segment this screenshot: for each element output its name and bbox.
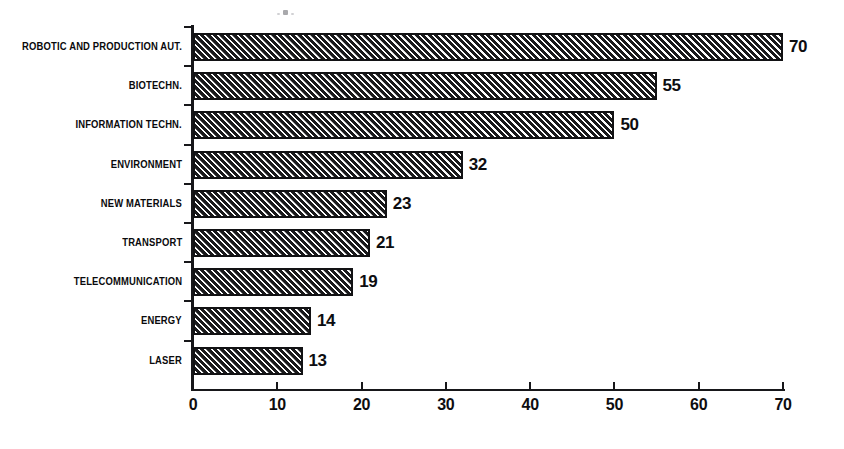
x-axis-tick-label: 70 <box>753 396 813 414</box>
bar <box>193 307 311 335</box>
y-axis-tick <box>184 65 193 67</box>
bar <box>193 72 657 100</box>
x-axis-tick <box>529 382 531 391</box>
x-axis-tick-label: 50 <box>584 396 644 414</box>
y-axis-tick <box>184 261 193 263</box>
x-axis-tick <box>192 382 194 391</box>
bar-value-label: 19 <box>359 272 377 292</box>
category-label: ENVIRONMENT <box>111 158 182 170</box>
category-label: INFORMATION TECHN. <box>75 118 182 130</box>
x-axis-tick <box>276 382 278 391</box>
y-axis-tick <box>184 300 193 302</box>
x-axis-tick <box>361 382 363 391</box>
bar-value-label: 14 <box>317 311 335 331</box>
bar-value-label: 55 <box>663 76 681 96</box>
y-axis-tick <box>184 340 193 342</box>
scan-artifact-speck <box>283 10 288 15</box>
x-axis-tick <box>445 382 447 391</box>
scan-artifact-speck <box>277 13 280 15</box>
y-axis-tick <box>184 144 193 146</box>
bar-value-label: 50 <box>620 115 638 135</box>
bar <box>193 33 783 61</box>
category-label: LASER <box>149 354 182 366</box>
category-label: BIOTECHN. <box>129 79 182 91</box>
bar-value-label: 21 <box>376 233 394 253</box>
x-axis-tick <box>782 382 784 391</box>
category-label: ROBOTIC AND PRODUCTION AUT. <box>22 40 182 52</box>
bar-value-label: 32 <box>469 155 487 175</box>
y-axis-tick <box>184 222 193 224</box>
bar <box>193 111 614 139</box>
bar-value-label: 70 <box>789 37 807 57</box>
y-axis-tick <box>184 183 193 185</box>
x-axis-tick <box>613 382 615 391</box>
bar-value-label: 23 <box>393 194 411 214</box>
bar <box>193 229 370 257</box>
scan-artifact-speck <box>291 13 294 15</box>
plot-area: 010203040506070 705550322321191413 ROBOT… <box>0 0 844 449</box>
bar-value-label: 13 <box>309 351 327 371</box>
x-axis-tick-label: 40 <box>500 396 560 414</box>
category-label: NEW MATERIALS <box>101 197 182 209</box>
category-label: TELECOMMUNICATION <box>74 275 182 287</box>
x-axis-tick-label: 0 <box>163 396 223 414</box>
bar <box>193 151 463 179</box>
y-axis-tick <box>184 104 193 106</box>
bar-chart: 010203040506070 705550322321191413 ROBOT… <box>0 0 844 449</box>
x-axis-tick <box>698 382 700 391</box>
x-axis-tick-label: 20 <box>332 396 392 414</box>
x-axis-tick-label: 10 <box>247 396 307 414</box>
bar <box>193 347 303 375</box>
category-label: ENERGY <box>141 314 182 326</box>
x-axis-line <box>191 389 785 391</box>
bar <box>193 190 387 218</box>
x-axis-tick-label: 30 <box>416 396 476 414</box>
bar <box>193 268 353 296</box>
category-label: TRANSPORT <box>122 236 182 248</box>
x-axis-tick-label: 60 <box>669 396 729 414</box>
y-axis-tick <box>184 26 193 28</box>
